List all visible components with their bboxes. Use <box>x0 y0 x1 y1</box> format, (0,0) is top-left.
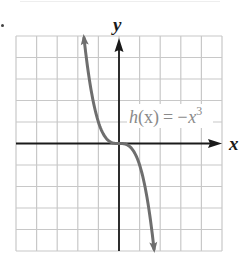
function-graph: x y h(x)=−x3 <box>0 0 247 257</box>
function-exponent: 3 <box>196 104 202 118</box>
equals-sign: = <box>163 107 173 127</box>
function-argument: (x) <box>138 107 159 128</box>
y-axis-arrow-icon <box>115 38 124 52</box>
x-axis-label: x <box>228 133 239 154</box>
function-rhs: −x <box>176 107 196 127</box>
function-name: h <box>129 107 138 127</box>
function-annotation: h(x)=−x3 <box>129 104 202 128</box>
x-axis-arrow-icon <box>208 139 222 148</box>
y-axis-label: y <box>111 14 122 35</box>
